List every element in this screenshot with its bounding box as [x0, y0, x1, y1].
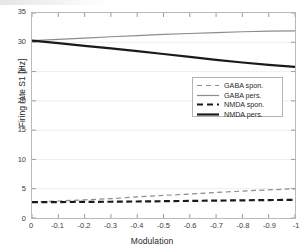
x-tick-label: -1 [283, 221, 304, 230]
x-tick-label: 0 [18, 221, 44, 230]
figure-canvas: 05101520253035 0-0.1-0.2-0.3-0.4-0.5-0.6… [0, 0, 304, 252]
legend-line-sample-icon [197, 91, 219, 100]
y-axis-title: Firing rate S1 [Hz] [17, 33, 27, 153]
legend-line-sample-icon [197, 81, 219, 90]
x-tick-label: -0.5 [151, 221, 177, 230]
x-tick-label: -0.4 [124, 221, 150, 230]
legend-item-gaba-pers[interactable]: GABA pers. [193, 91, 282, 100]
legend-item-label: NMDA spon. [224, 100, 264, 109]
x-tick-label: -0.9 [257, 221, 283, 230]
x-tick-label: -0.3 [98, 221, 124, 230]
legend-item-nmda-spon[interactable]: NMDA spon. [193, 100, 282, 109]
legend-line-sample-icon [197, 110, 219, 119]
legend-item-label: GABA pers. [224, 91, 262, 100]
legend-item-label: NMDA pers. [224, 110, 263, 119]
x-tick-label: -0.2 [71, 221, 97, 230]
x-tick-label: -0.1 [45, 221, 71, 230]
legend-item-label: GABA spon. [224, 81, 263, 90]
x-tick-label: -0.7 [204, 221, 230, 230]
legend-item-gaba-spon[interactable]: GABA spon. [193, 81, 282, 90]
chart-legend[interactable]: GABA spon. GABA pers. NMDA spon. NMDA pe… [192, 77, 283, 117]
x-axis-tick-labels: 0-0.1-0.2-0.3-0.4-0.5-0.6-0.7-0.8-0.9-1 [0, 0, 304, 252]
legend-line-sample-icon [197, 100, 219, 109]
x-tick-label: -0.6 [177, 221, 203, 230]
legend-item-nmda-pers[interactable]: NMDA pers. [193, 110, 282, 119]
x-axis-title: Modulation [0, 236, 304, 246]
x-tick-label: -0.8 [230, 221, 256, 230]
